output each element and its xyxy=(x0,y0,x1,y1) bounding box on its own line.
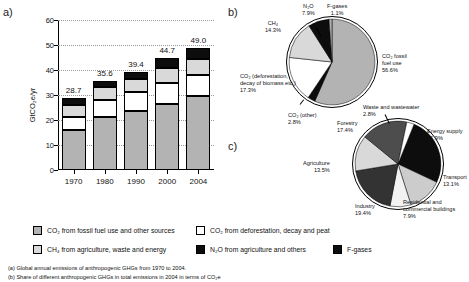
bar-2000: 44.72000 xyxy=(155,58,179,170)
bar-segment-co2f xyxy=(155,104,179,170)
bar-segment-co2d xyxy=(62,117,86,131)
pie-c-label-energy: Energy supply 25.9% xyxy=(427,128,462,142)
panel-letter-a: a) xyxy=(3,6,13,18)
pie-c-label-waste: Waste and wastewater 2.8% xyxy=(363,104,419,118)
x-tick-mark xyxy=(136,170,137,174)
bar-segment-co2f xyxy=(93,117,117,170)
legend-swatch-co2-fossil-icon xyxy=(33,226,42,235)
legend-item-co2-deforestation: CO₂ from deforestation, decay and peat xyxy=(196,226,330,235)
pie-b-label-ch4: CH₄ 14.3% xyxy=(265,20,281,34)
x-tick-label-1990: 1990 xyxy=(127,177,145,186)
y-tick-mark xyxy=(54,95,58,96)
x-tick-label-1980: 1980 xyxy=(96,177,114,186)
pie-c-label-residential: Residential and commercial buildings 7.9… xyxy=(403,199,455,220)
bar-total-label: 49.0 xyxy=(191,36,207,45)
y-tick-mark xyxy=(54,145,58,146)
y-tick-mark xyxy=(54,45,58,46)
legend-label-co2-fossil: CO₂ from fossil fuel use and other sourc… xyxy=(47,227,175,234)
legend-item-ch4: CH₄ from agriculture, waste and energy xyxy=(33,245,166,254)
bar-segment-n2o xyxy=(186,48,210,59)
bar-segment-co2f xyxy=(62,130,86,170)
legend-swatch-f-gases-icon xyxy=(333,245,342,254)
bar-segment-n2o xyxy=(124,72,148,79)
bar-1970: 28.71970 xyxy=(62,98,86,170)
figure-ghg-emissions: a) b) c) GtCO₂e/yr 010203040506028.71970… xyxy=(0,0,469,282)
pie-b-label-co2-deforestation: CO₂ (deforestation, decay of biomass etc… xyxy=(240,73,296,94)
bar-segment-ch4 xyxy=(186,59,210,75)
pie-b-label-n2o: N₂O 7.9% xyxy=(302,3,315,17)
legend-label-f-gases: F-gases xyxy=(347,246,372,253)
bar-total-label: 44.7 xyxy=(159,46,175,55)
bar-segment-co2d xyxy=(93,100,117,117)
legend: CO₂ from fossil fuel use and other sourc… xyxy=(0,222,469,262)
legend-item-n2o: N₂O from agriculture and others xyxy=(196,245,306,254)
pie-c-label-transport: Transport 13.1% xyxy=(443,174,467,188)
figure-caption: (a) Global annual emissions of anthropog… xyxy=(8,264,448,281)
pie-c-label-forestry: Forestry 17.4% xyxy=(337,120,358,134)
y-tick-mark xyxy=(54,70,58,71)
caption-line-a: (a) Global annual emissions of anthropog… xyxy=(8,264,448,273)
bar-segment-ch4 xyxy=(124,79,148,92)
legend-label-ch4: CH₄ from agriculture, waste and energy xyxy=(47,246,166,253)
x-tick-mark xyxy=(198,170,199,174)
legend-item-f-gases: F-gases xyxy=(333,245,372,254)
legend-item-co2-fossil: CO₂ from fossil fuel use and other sourc… xyxy=(33,226,175,235)
pie-c-label-agriculture: Agriculture 13.5% xyxy=(303,160,330,174)
pie-chart-panel-b xyxy=(286,16,378,108)
bar-segment-co2f xyxy=(186,96,210,170)
x-tick-label-2004: 2004 xyxy=(189,177,207,186)
pie-c-label-industry: Industry 19.4% xyxy=(355,203,375,217)
pie-b-slices xyxy=(287,17,377,107)
y-tick-mark xyxy=(54,170,58,171)
bar-segment-co2d xyxy=(155,83,179,104)
bar-segment-ch4 xyxy=(62,105,86,117)
bar-segment-n2o xyxy=(155,58,179,68)
x-tick-mark xyxy=(167,170,168,174)
y-tick-mark xyxy=(54,20,58,21)
x-tick-label-2000: 2000 xyxy=(158,177,176,186)
caption-line-b: (b) Share of different anthropogenic GHG… xyxy=(8,273,448,282)
legend-label-co2-deforestation: CO₂ from deforestation, decay and peat xyxy=(210,227,330,234)
x-tick-label-1970: 1970 xyxy=(65,177,83,186)
panel-letter-b: b) xyxy=(228,6,238,18)
x-tick-mark xyxy=(105,170,106,174)
x-tick-mark xyxy=(74,170,75,174)
gridline xyxy=(58,20,214,21)
bar-total-label: 35.6 xyxy=(97,69,113,78)
bar-segment-n2o xyxy=(62,98,86,104)
pie-b-label-fgases: F-gases 1.1% xyxy=(327,3,347,17)
bar-1980: 35.61980 xyxy=(93,81,117,170)
bar-segment-co2d xyxy=(124,92,148,111)
bar-segment-co2f xyxy=(124,111,148,171)
bar-segment-n2o xyxy=(93,81,117,87)
bar-total-label: 39.4 xyxy=(128,60,144,69)
gridline xyxy=(58,45,214,46)
y-axis-label: GtCO₂e/yr xyxy=(28,88,37,123)
plot-area: 010203040506028.7197035.6198039.4199044.… xyxy=(58,20,214,170)
bar-segment-ch4 xyxy=(93,87,117,100)
panel-letter-c: c) xyxy=(228,140,237,152)
bar-segment-co2d xyxy=(186,75,210,96)
legend-swatch-n2o-icon xyxy=(196,245,205,254)
legend-swatch-co2-deforestation-icon xyxy=(196,226,205,235)
y-tick-mark xyxy=(54,120,58,121)
pie-b-label-co2-other: CO₂ (other) 2.8% xyxy=(288,112,317,126)
bar-total-label: 28.7 xyxy=(66,86,82,95)
bar-chart-panel-a: GtCO₂e/yr 010203040506028.7197035.619803… xyxy=(36,14,214,196)
legend-swatch-ch4-icon xyxy=(33,245,42,254)
bar-2004: 49.02004 xyxy=(186,48,210,171)
bar-1990: 39.41990 xyxy=(124,72,148,171)
legend-label-n2o: N₂O from agriculture and others xyxy=(210,246,306,253)
pie-b-label-co2-fossil: CO₂ fossil fuel use 56.6% xyxy=(382,53,407,74)
bar-segment-ch4 xyxy=(155,68,179,83)
